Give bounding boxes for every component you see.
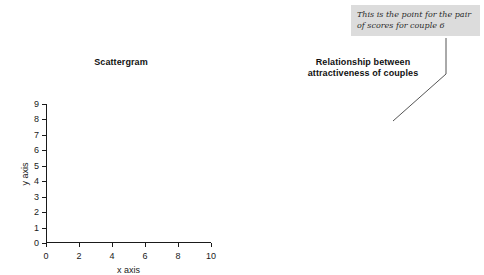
y-tick-left-8 [42, 119, 46, 120]
chart-title-line-right-0: Relationship between [242, 57, 484, 68]
y-tick-label-left-5: 5 [34, 161, 39, 171]
y-axis-label-left: y axis [20, 162, 30, 185]
y-tick-label-left-1: 1 [34, 223, 39, 233]
y-tick-left-9 [42, 104, 46, 105]
x-tick-label-left-5: 10 [206, 251, 216, 261]
y-tick-left-2 [42, 212, 46, 213]
x-tick-left-5 [211, 243, 212, 247]
y-tick-left-4 [42, 181, 46, 182]
x-tick-label-left-1: 2 [76, 251, 81, 261]
x-tick-left-1 [79, 243, 80, 247]
x-tick-left-2 [112, 243, 113, 247]
chart-title-line-left-0: Scattergram [0, 57, 242, 68]
y-tick-left-6 [42, 150, 46, 151]
x-tick-label-left-3: 6 [142, 251, 147, 261]
chart-title-line-right-1: attractiveness of couples [242, 68, 484, 79]
y-axis-line-left [46, 104, 47, 243]
x-tick-label-left-2: 4 [109, 251, 114, 261]
chart-title-left: Scattergram [0, 57, 242, 68]
x-tick-left-3 [145, 243, 146, 247]
x-tick-label-left-0: 0 [43, 251, 48, 261]
callout-couple-6: This is the point for the pair of scores… [351, 5, 480, 36]
x-tick-label-left-4: 8 [175, 251, 180, 261]
x-tick-left-0 [46, 243, 47, 247]
plot-area-left: x axis y axis 02468100123456789 [46, 104, 211, 243]
chart-title-right: Relationship betweenattractiveness of co… [242, 57, 484, 79]
chart-panel-scattergram: Scattergram x axis y axis 02468100123456… [0, 0, 242, 275]
x-tick-left-4 [178, 243, 179, 247]
y-tick-label-left-3: 3 [34, 192, 39, 202]
y-tick-label-left-9: 9 [34, 99, 39, 109]
chart-panel-attractiveness: Relationship betweenattractiveness of co… [242, 0, 484, 275]
y-tick-label-left-2: 2 [34, 207, 39, 217]
callout-line-1: This is the point for the pair [357, 9, 475, 20]
y-tick-left-0 [42, 243, 46, 244]
figure-canvas: Scattergram x axis y axis 02468100123456… [0, 0, 484, 275]
y-tick-left-1 [42, 228, 46, 229]
y-tick-left-3 [42, 197, 46, 198]
x-axis-label-left: x axis [117, 265, 140, 275]
y-tick-label-left-8: 8 [34, 114, 39, 124]
y-tick-label-left-7: 7 [34, 130, 39, 140]
y-tick-label-left-0: 0 [34, 238, 39, 248]
y-tick-label-left-6: 6 [34, 145, 39, 155]
x-axis-line-left [46, 242, 211, 243]
y-tick-left-5 [42, 166, 46, 167]
y-tick-label-left-4: 4 [34, 176, 39, 186]
y-tick-left-7 [42, 135, 46, 136]
callout-line-2: of scores for couple 6 [357, 20, 475, 31]
